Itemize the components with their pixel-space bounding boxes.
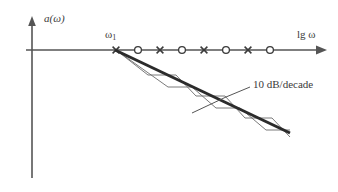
y-axis-label: a(ω) <box>44 13 65 24</box>
x-axis-label: lg ω <box>297 29 316 40</box>
zero-circle-icon <box>267 47 274 54</box>
corner-frequency-label: ω1 <box>105 29 116 42</box>
average-slope-line <box>115 50 290 133</box>
x-axis <box>26 46 327 55</box>
corner-frequency-subscript: 1 <box>112 33 116 42</box>
figure-canvas: a(ω) lg ω ω1 10 dB/decade <box>0 0 338 192</box>
zero-circle-icon <box>179 47 186 54</box>
zero-circle-icon <box>135 47 142 54</box>
slope-annotation-label: 10 dB/decade <box>253 79 313 90</box>
y-axis <box>28 16 36 178</box>
zero-circle-icon <box>223 47 230 54</box>
bode-plot-svg <box>0 0 338 192</box>
